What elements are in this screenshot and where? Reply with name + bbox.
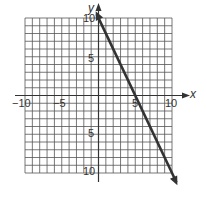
y-tick-label-neg5: 5 [88, 128, 94, 139]
x-tick-label-5: 5 [132, 98, 138, 109]
x-tick-label-neg5: −5 [53, 98, 66, 109]
y-tick-label-5: 5 [88, 53, 94, 64]
y-tick-label-neg10: 10 [83, 166, 95, 177]
y-axis-arrow-icon [96, 3, 102, 11]
x-axis-arrow-icon [182, 93, 190, 99]
x-axis-label: x [190, 88, 196, 100]
x-tick-label-neg10: −10 [12, 98, 31, 109]
x-tick-label-10: 10 [165, 98, 177, 109]
y-tick-label-10: 10 [83, 13, 95, 24]
